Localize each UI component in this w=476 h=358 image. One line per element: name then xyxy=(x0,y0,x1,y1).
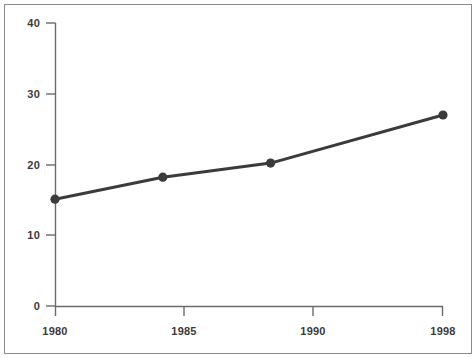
x-tick-label-1998: 1998 xyxy=(430,325,455,337)
x-tick-label-1980: 1980 xyxy=(42,325,67,337)
data-series-line xyxy=(50,110,447,203)
chart-figure: 40 30 20 10 0 1980 1985 1990 1998 xyxy=(0,0,476,358)
data-point-1980 xyxy=(50,195,59,204)
y-tick-label-0: 0 xyxy=(16,300,40,312)
y-axis xyxy=(46,23,56,306)
data-point-1990 xyxy=(266,159,275,168)
series-1-line xyxy=(55,115,443,199)
x-tick-label-1990: 1990 xyxy=(300,325,325,337)
x-axis xyxy=(56,306,444,316)
data-point-1985 xyxy=(158,173,167,182)
y-tick-label-10: 10 xyxy=(16,229,40,241)
y-tick-label-20: 20 xyxy=(16,159,40,171)
data-point-1998 xyxy=(438,110,447,119)
y-tick-label-40: 40 xyxy=(16,17,40,29)
line-chart-plot xyxy=(0,0,476,358)
x-tick-label-1985: 1985 xyxy=(171,325,196,337)
y-tick-label-30: 30 xyxy=(16,88,40,100)
